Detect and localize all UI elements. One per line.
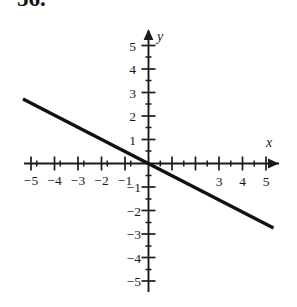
x-tick-label: 5 xyxy=(263,174,270,189)
y-tick-label: 4 xyxy=(129,62,136,77)
y-tick-label: −5 xyxy=(127,274,142,289)
y-tick-label: 5 xyxy=(129,39,136,54)
x-tick-label: −5 xyxy=(24,173,39,188)
y-tick-label: 1 xyxy=(129,133,136,148)
y-tick-label: −2 xyxy=(127,204,141,219)
x-tick-label: 3 xyxy=(216,174,223,189)
y-tick-label: 2 xyxy=(129,109,136,124)
y-tick-label: 3 xyxy=(129,86,136,101)
y-axis-label: y xyxy=(155,29,164,44)
x-tick-label: 4 xyxy=(239,174,246,189)
x-tick-label: −2 xyxy=(94,173,108,188)
graph-figure: 56. xyxy=(0,0,297,307)
y-tick-label: −3 xyxy=(127,227,142,242)
y-axis-arrow-icon xyxy=(144,29,154,40)
x-tick-label: −4 xyxy=(47,173,62,188)
x-tick-label: −3 xyxy=(71,173,86,188)
coordinate-plane: −5 −4 −3 −2 −1 3 4 5 5 4 3 2 1 −1 −2 −3 … xyxy=(0,0,297,307)
y-tick-label: −1 xyxy=(127,180,141,195)
x-axis-arrow-icon xyxy=(268,159,279,169)
x-axis-label: x xyxy=(265,135,273,150)
y-tick-label: −4 xyxy=(127,251,142,266)
